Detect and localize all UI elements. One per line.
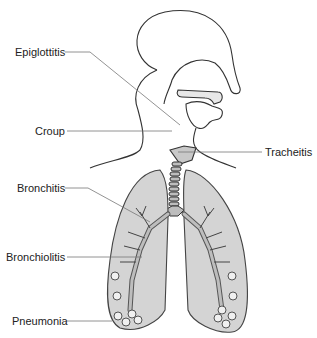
- label-tracheitis: Tracheitis: [265, 146, 312, 159]
- right-lung: [184, 170, 248, 332]
- label-pneumonia: Pneumonia: [12, 315, 68, 328]
- head-outline: [90, 11, 240, 168]
- label-bronchiolitis: Bronchiolitis: [6, 251, 65, 264]
- label-croup: Croup: [35, 125, 65, 138]
- label-epiglottitis: Epiglottitis: [15, 46, 65, 59]
- label-bronchitis: Bronchitis: [17, 182, 65, 195]
